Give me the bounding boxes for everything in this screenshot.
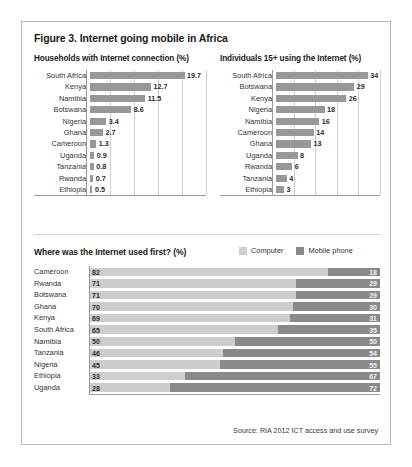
chart-internet-first-use: Where was the Internet used first? (%) C…	[34, 246, 380, 394]
bar-track: 8.6	[90, 104, 206, 115]
legend-swatch-computer-icon	[239, 247, 247, 255]
bar-value-label: 14	[316, 129, 324, 136]
stacked-bar-row: Namibia5050	[34, 336, 380, 348]
stacked-segment-value-mobile-phone: 29	[369, 291, 377, 298]
stacked-bar-track: 4555	[89, 360, 380, 369]
bar-row: Namibia16	[220, 116, 380, 127]
stacked-segment-value-mobile-phone: 29	[369, 280, 377, 287]
stacked-bar-track: 3367	[89, 372, 380, 381]
top-charts-panel: Households with Internet connection (%) …	[22, 54, 390, 236]
bar	[90, 106, 131, 113]
bar-track: 3.4	[90, 116, 206, 127]
bar-track: 18	[276, 104, 380, 115]
y-axis-internet-first-use	[89, 266, 90, 394]
bar-track: 1.3	[90, 138, 206, 149]
bar	[276, 152, 298, 159]
bar-value-label: 0.7	[96, 175, 106, 182]
bar	[90, 129, 103, 136]
bar-category-label: Ghana	[34, 129, 90, 136]
bar-row: Kenya12.7	[34, 81, 206, 92]
bar-track: 3	[276, 184, 380, 195]
chart-title-internet-first-use: Where was the Internet used first? (%)	[34, 247, 186, 257]
stacked-segment-value-computer: 33	[92, 373, 100, 380]
bar-row: Ghana2.7	[34, 127, 206, 138]
bar-category-label: South Africa	[220, 72, 276, 79]
x-axis-internet-first-use	[89, 394, 380, 395]
stacked-bar-row: Tanzania4654	[34, 347, 380, 359]
stacked-bar-category-label: Nigeria	[34, 361, 89, 368]
x-axis-individuals	[220, 195, 380, 196]
stacked-segment-value-mobile-phone: 72	[369, 384, 377, 391]
stacked-bar-row: Kenya6931	[34, 312, 380, 324]
stacked-segment-mobile-phone: 18	[328, 268, 380, 277]
stacked-bar-row: Nigeria4555	[34, 359, 380, 371]
bar-category-label: Nigeria	[34, 118, 90, 125]
bar-value-label: 3	[287, 186, 291, 193]
stacked-segment-computer: 69	[89, 314, 290, 323]
bar	[90, 118, 106, 125]
stacked-bar-track: 5050	[89, 337, 380, 346]
bar-track: 12.7	[90, 81, 206, 92]
bar-category-label: Rwanda	[34, 175, 90, 182]
bar-rows-individuals: South Africa34Botswana29Kenya26Nigeria18…	[220, 70, 380, 195]
legend-swatch-mobile-phone-icon	[296, 247, 304, 255]
bar-track: 6	[276, 161, 380, 172]
stacked-bar-category-label: Ghana	[34, 303, 89, 310]
bar-value-label: 6	[295, 163, 299, 170]
stacked-bar-track: 8218	[89, 268, 380, 277]
stacked-segment-value-computer: 71	[92, 291, 100, 298]
bar-track: 26	[276, 93, 380, 104]
stacked-bar-category-label: Namibia	[34, 338, 89, 345]
bar	[276, 118, 319, 125]
panel-divider	[34, 234, 380, 235]
bar-row: Nigeria3.4	[34, 116, 206, 127]
bar-track: 0.8	[90, 161, 206, 172]
bar-value-label: 18	[327, 106, 335, 113]
bar-track: 13	[276, 138, 380, 149]
chart-individuals-using-internet: Individuals 15+ using the Internet (%) S…	[220, 54, 380, 195]
bar-category-label: Nigeria	[220, 106, 276, 113]
stacked-bar-row: South Africa6535	[34, 324, 380, 336]
stacked-segment-value-computer: 70	[92, 303, 100, 310]
bar	[276, 163, 292, 170]
gridline	[380, 70, 381, 195]
stacked-segment-computer: 65	[89, 325, 278, 334]
stacked-segment-mobile-phone: 31	[290, 314, 380, 323]
stacked-bar-category-label: Rwanda	[34, 280, 89, 287]
bar-row: Uganda8	[220, 150, 380, 161]
chart-legend: Computer Mobile phone	[239, 247, 353, 255]
bar-track: 0.9	[90, 150, 206, 161]
stacked-segment-computer: 28	[89, 383, 170, 392]
bar-category-label: Uganda	[220, 152, 276, 159]
stacked-bar-track: 6931	[89, 314, 380, 323]
bar-value-label: 11.5	[148, 95, 162, 102]
stacked-segment-value-mobile-phone: 31	[369, 315, 377, 322]
stacked-bar-category-label: South Africa	[34, 326, 89, 333]
legend-label-mobile-phone: Mobile phone	[308, 247, 352, 254]
stacked-bar-category-label: Tanzania	[34, 349, 89, 356]
figure-container: Figure 3. Internet going mobile in Afric…	[21, 21, 391, 445]
stacked-segment-mobile-phone: 55	[220, 360, 380, 369]
bar-value-label: 2.7	[105, 129, 115, 136]
bar-value-label: 1.3	[99, 140, 109, 147]
bar-value-label: 19.7	[187, 72, 201, 79]
bar	[90, 95, 145, 102]
bar-row: Botswana8.6	[34, 104, 206, 115]
stacked-segment-value-mobile-phone: 35	[369, 326, 377, 333]
bar-category-label: Botswana	[220, 83, 276, 90]
bar	[90, 140, 96, 147]
bar-category-label: Ethiopia	[34, 186, 90, 193]
bar-track: 29	[276, 81, 380, 92]
bar-row: Kenya26	[220, 93, 380, 104]
stacked-segment-computer: 33	[89, 372, 185, 381]
bar	[90, 163, 94, 170]
stacked-bar-row: Rwanda7129	[34, 278, 380, 290]
bar	[90, 186, 92, 193]
bar-row: Botswana29	[220, 81, 380, 92]
bar-value-label: 0.5	[95, 186, 105, 193]
stacked-segment-value-computer: 50	[92, 338, 100, 345]
source-note: Source: RIA 2012 ICT access and use surv…	[233, 426, 378, 435]
bar-track: 19.7	[90, 70, 206, 81]
bar-value-label: 26	[349, 95, 357, 102]
bar-track: 0.5	[90, 184, 206, 195]
